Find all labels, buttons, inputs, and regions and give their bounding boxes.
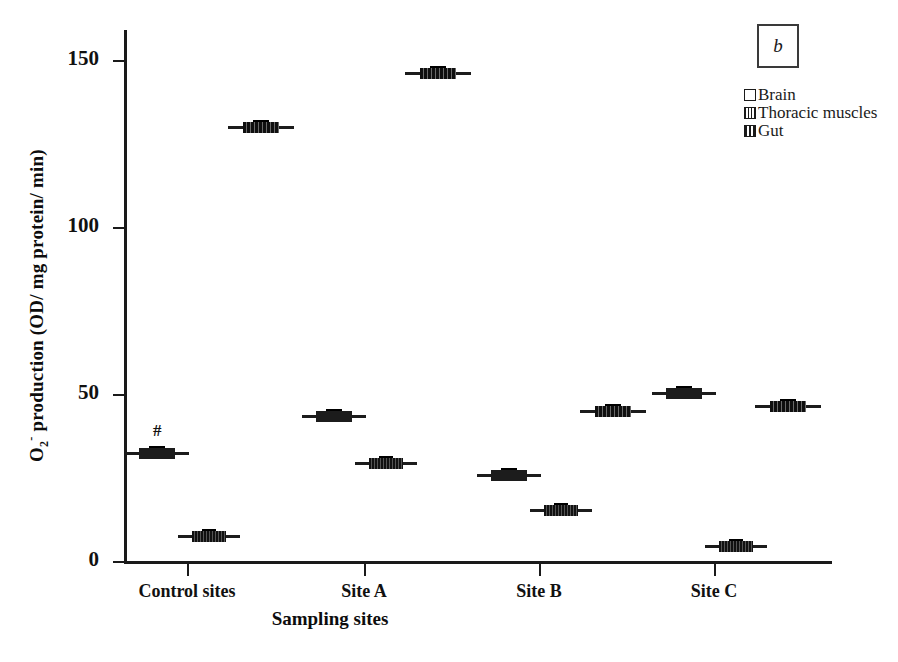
plot-area: 0 50 100 150 Control sites Site A Site B… xyxy=(124,30,830,563)
y-axis-line xyxy=(124,30,127,563)
box xyxy=(719,541,754,552)
y-tick-50: 50 xyxy=(113,394,124,396)
boxplot-marker-site-b-gut xyxy=(580,406,646,417)
panel-letter: b xyxy=(759,26,797,66)
legend-label-thoracic-muscles: Thoracic muscles xyxy=(758,104,877,122)
boxplot-marker-site-a-thoracic-muscles xyxy=(355,458,417,469)
x-tick-control xyxy=(187,564,189,576)
boxplot-marker-site-b-thoracic-muscles xyxy=(530,505,592,516)
x-tick-label-site-c: Site C xyxy=(629,581,799,602)
x-axis-title: Sampling sites xyxy=(0,608,660,630)
x-tick-label-site-b: Site B xyxy=(454,581,624,602)
y-tick-label-50: 50 xyxy=(39,382,99,403)
boxplot-marker-site-b-brain xyxy=(477,470,541,481)
x-tick-label-site-a: Site A xyxy=(279,581,449,602)
y-tick-100: 100 xyxy=(113,227,124,229)
boxplot-marker-site-c-brain xyxy=(652,388,716,399)
boxplot-marker-site-c-thoracic-muscles xyxy=(705,541,767,552)
box xyxy=(544,505,579,516)
median-line xyxy=(605,404,621,406)
box xyxy=(666,388,702,399)
box xyxy=(139,448,175,459)
x-axis-line xyxy=(124,561,832,564)
legend-swatch-gut-icon xyxy=(744,125,756,137)
median-line xyxy=(676,386,691,388)
median-line xyxy=(780,399,796,401)
y-tick-label-0: 0 xyxy=(39,549,99,570)
median-line xyxy=(554,503,569,505)
median-line xyxy=(430,66,446,68)
box xyxy=(770,401,807,412)
median-line xyxy=(149,446,164,448)
x-tick-site-b xyxy=(539,564,541,576)
y-tick-label-100: 100 xyxy=(39,215,99,236)
legend-item-thoracic-muscles: Thoracic muscles xyxy=(744,104,877,122)
box xyxy=(243,122,280,133)
x-tick-site-a xyxy=(364,564,366,576)
box xyxy=(316,411,352,422)
legend-item-brain: Brain xyxy=(744,86,877,104)
box xyxy=(420,68,457,79)
boxplot-marker-site-c-gut xyxy=(755,401,821,412)
median-line xyxy=(729,539,744,541)
median-line xyxy=(326,409,341,411)
y-tick-0: 0 xyxy=(113,561,124,563)
legend-item-gut: Gut xyxy=(744,122,877,140)
y-axis-title: O2- production (OD/ mg protein/ min) xyxy=(24,46,51,566)
y-tick-label-150: 150 xyxy=(39,48,99,69)
boxplot-marker-site-a-gut xyxy=(405,68,471,79)
panel-letter-box: b xyxy=(757,24,799,68)
x-tick-label-control: Control sites xyxy=(102,581,272,602)
median-line xyxy=(501,468,516,470)
box xyxy=(369,458,404,469)
boxplot-marker-control-sites-thoracic-muscles xyxy=(178,531,240,542)
box xyxy=(491,470,527,481)
median-line xyxy=(202,529,217,531)
legend-swatch-thoracic-muscles-icon xyxy=(744,107,756,119)
legend-label-gut: Gut xyxy=(758,122,784,140)
y-tick-150: 150 xyxy=(113,60,124,62)
significance-annotation-0: # xyxy=(153,421,162,441)
box xyxy=(595,406,632,417)
box xyxy=(192,531,227,542)
legend-label-brain: Brain xyxy=(758,86,796,104)
median-line xyxy=(253,120,269,122)
median-line xyxy=(379,456,394,458)
boxplot-marker-control-sites-brain xyxy=(125,448,189,459)
legend-swatch-brain-icon xyxy=(744,89,756,101)
boxplot-marker-site-a-brain xyxy=(302,411,366,422)
boxplot-marker-control-sites-gut xyxy=(228,122,294,133)
figure-panel: O2- production (OD/ mg protein/ min) Sam… xyxy=(0,0,898,662)
legend: Brain Thoracic muscles Gut xyxy=(744,86,877,140)
x-tick-site-c xyxy=(714,564,716,576)
